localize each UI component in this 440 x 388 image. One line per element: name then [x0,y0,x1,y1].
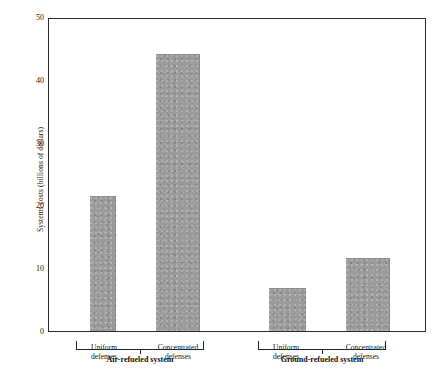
y-axis-title: Systems costs (billions of dollars) [36,80,45,280]
group-label-air: Air-refueled system [80,355,200,364]
group-bracket-air [76,341,204,350]
group-bracket-stem-ground [322,350,323,354]
bar-air-uniform [90,196,116,331]
group-label-ground: Ground-refueled system [258,355,386,364]
bar-chart-figure: Systems costs (billions of dollars) 50 4… [0,0,440,388]
y-tick-label-50: 50 [14,14,44,22]
group-bracket-ground [258,341,386,350]
plot-area [48,18,426,332]
y-tick-label-40: 40 [14,77,44,85]
y-tick-label-20: 20 [14,202,44,210]
y-tick-label-30: 30 [14,140,44,148]
group-bracket-stem-air [140,350,141,354]
bar-ground-uniform [269,288,306,331]
y-tick-label-0: 0 [14,328,44,336]
bar-air-concentrated [156,54,200,331]
bar-ground-concentrated [346,258,390,331]
y-tick-label-10: 10 [14,265,44,273]
